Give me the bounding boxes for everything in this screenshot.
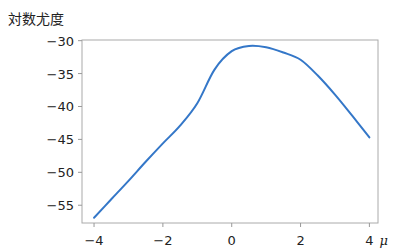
x-tick-label: 0 bbox=[228, 233, 236, 248]
y-tick-label: −55 bbox=[47, 198, 74, 213]
y-tick-label: −50 bbox=[47, 165, 74, 180]
y-tick-label: −45 bbox=[47, 132, 74, 147]
y-tick-label: −35 bbox=[47, 67, 74, 82]
x-tick-label: −4 bbox=[84, 233, 103, 248]
data-line bbox=[94, 46, 369, 218]
x-tick-label: −2 bbox=[153, 233, 172, 248]
y-tick-label: −40 bbox=[47, 99, 74, 114]
line-chart: −30−35−40−45−50−55−4−2024μ bbox=[0, 0, 394, 250]
x-tick-label: 4 bbox=[365, 233, 373, 248]
y-tick-label: −30 bbox=[47, 34, 74, 49]
x-tick-label: 2 bbox=[296, 233, 304, 248]
x-axis-label: μ bbox=[379, 233, 387, 248]
plot-frame bbox=[82, 40, 378, 223]
plot-axes: −30−35−40−45−50−55−4−2024μ bbox=[47, 34, 388, 248]
